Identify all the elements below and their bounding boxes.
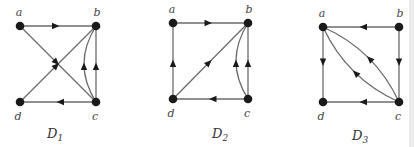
- vertex-d: [319, 98, 328, 107]
- arrowhead-icon: [360, 24, 368, 30]
- vertex-a: [169, 19, 178, 28]
- vertex-label-d: d: [317, 110, 324, 123]
- arrowhead-icon: [93, 63, 99, 71]
- vertex-label-c: c: [92, 110, 98, 123]
- arrowhead-icon: [320, 59, 326, 67]
- edge-c-b: [84, 26, 96, 102]
- vertex-label-b: b: [93, 6, 100, 19]
- arrowhead-icon: [52, 23, 60, 29]
- vertex-label-b: b: [245, 3, 252, 16]
- vertex-c: [395, 98, 404, 107]
- arrowhead-icon: [396, 59, 402, 67]
- vertex-label-a: a: [16, 6, 23, 19]
- vertex-b: [244, 19, 253, 28]
- vertex-b: [395, 23, 404, 32]
- graph-d2: abcdD2: [167, 3, 252, 143]
- vertex-label-d: d: [14, 110, 21, 123]
- vertex-label-b: b: [396, 7, 403, 20]
- arrowhead-icon: [205, 20, 213, 26]
- vertex-label-a: a: [319, 7, 326, 20]
- vertex-label-d: d: [167, 107, 174, 120]
- edge-c-a: [323, 27, 399, 102]
- arrowhead-icon: [209, 96, 217, 102]
- graph-caption: D2: [211, 126, 228, 143]
- vertex-label-a: a: [169, 3, 176, 16]
- arrowhead-icon: [170, 60, 176, 68]
- arrowhead-icon: [57, 99, 65, 105]
- graph-d3: abcdD3: [317, 7, 403, 145]
- arrowhead-icon: [360, 99, 368, 105]
- vertex-d: [169, 95, 178, 104]
- edge-c-a: [323, 27, 399, 102]
- vertex-label-c: c: [395, 110, 401, 123]
- vertex-c: [244, 95, 253, 104]
- vertex-a: [319, 23, 328, 32]
- arrowhead-icon: [245, 60, 251, 68]
- digraph-figure: abcdD1 abcdD2 abcdD3: [0, 0, 414, 147]
- vertex-label-c: c: [244, 107, 250, 120]
- graph-caption: D3: [351, 128, 368, 145]
- graph-d1: abcdD1: [14, 6, 100, 143]
- graph-caption: D1: [46, 126, 63, 143]
- vertex-b: [92, 22, 101, 31]
- vertex-c: [92, 98, 101, 107]
- edge-c-b: [236, 23, 248, 99]
- vertex-d: [16, 98, 25, 107]
- arrowhead-icon: [81, 63, 87, 71]
- arrowhead-icon: [233, 60, 239, 68]
- vertex-a: [16, 22, 25, 31]
